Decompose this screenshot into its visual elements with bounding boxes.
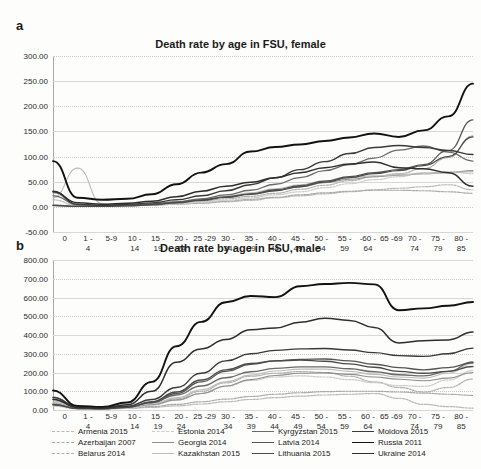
- y-tick-label: 100.00: [24, 387, 48, 396]
- series-line: [53, 283, 473, 407]
- legend-label: Ukraine 2014: [378, 449, 426, 458]
- y-axis-labels-a: -50.000.0050.00100.00150.00200.00250.003…: [0, 56, 52, 232]
- legend-swatch-icon: [352, 442, 374, 443]
- legend-swatch-icon: [52, 453, 74, 454]
- chart-panel-b: b Death rate by age in FSU, male 0.00100…: [0, 238, 481, 418]
- y-tick-label: 100.00: [24, 152, 48, 161]
- x-tick-label: 80 -85: [450, 412, 473, 432]
- gridline: [53, 410, 473, 411]
- y-axis-labels-b: 0.00100.00200.00300.00400.00500.00600.00…: [0, 260, 52, 410]
- legend-item[interactable]: Ukraine 2014: [352, 449, 452, 458]
- legend-swatch-icon: [252, 431, 274, 432]
- y-tick-label: 300.00: [24, 52, 48, 61]
- plot-area-a: -50.000.0050.00100.00150.00200.00250.003…: [0, 56, 481, 232]
- y-tick-label: 300.00: [24, 349, 48, 358]
- y-tick-label: 200.00: [24, 102, 48, 111]
- series-line: [53, 171, 473, 206]
- legend-row: Armenia 2015Estonia 2014Kyrgyzstan 2015M…: [52, 427, 452, 436]
- chart-panel-a: a Death rate by age in FSU, female -50.0…: [0, 18, 481, 238]
- y-tick-label: 500.00: [24, 312, 48, 321]
- legend-swatch-icon: [152, 431, 174, 432]
- legend-row: Azerbaijan 2007Georgia 2014Latvia 2014Ru…: [52, 438, 452, 447]
- plot-canvas-a: [53, 56, 473, 232]
- series-lines: [53, 260, 473, 410]
- y-tick-label: 250.00: [24, 77, 48, 86]
- legend-swatch-icon: [252, 442, 274, 443]
- y-tick-label: 150.00: [24, 127, 48, 136]
- legend-label: Russia 2011: [378, 438, 422, 447]
- legend-label: Belarus 2014: [78, 449, 125, 458]
- legend-label: Latvia 2014: [278, 438, 319, 447]
- chart-legend: Armenia 2015Estonia 2014Kyrgyzstan 2015M…: [52, 427, 452, 460]
- legend-swatch-icon: [152, 442, 174, 443]
- legend-item[interactable]: Belarus 2014: [52, 449, 152, 458]
- legend-item[interactable]: Azerbaijan 2007: [52, 438, 152, 447]
- legend-swatch-icon: [352, 453, 374, 454]
- gridline: [53, 232, 473, 233]
- legend-swatch-icon: [152, 453, 174, 454]
- y-tick-label: 400.00: [24, 331, 48, 340]
- plot-canvas-b: [53, 260, 473, 410]
- series-line: [53, 172, 473, 207]
- chart-title-b: Death rate by age in FSU, male: [0, 242, 481, 254]
- legend-item[interactable]: Moldova 2015: [352, 427, 452, 436]
- series-line: [53, 360, 473, 409]
- series-line: [53, 84, 473, 200]
- legend-label: Azerbaijan 2007: [78, 438, 136, 447]
- legend-label: Moldova 2015: [378, 427, 428, 436]
- legend-label: Kyrgyzstan 2015: [278, 427, 338, 436]
- y-tick-label: 700.00: [24, 274, 48, 283]
- legend-item[interactable]: Armenia 2015: [52, 427, 152, 436]
- y-tick-label: -50.00: [25, 228, 48, 237]
- y-tick-label: 0.00: [32, 406, 48, 415]
- legend-swatch-icon: [52, 431, 74, 432]
- legend-swatch-icon: [52, 442, 74, 443]
- legend-label: Armenia 2015: [78, 427, 128, 436]
- plot-area-b: 0.00100.00200.00300.00400.00500.00600.00…: [0, 260, 481, 410]
- y-tick-label: 0.00: [32, 202, 48, 211]
- legend-label: Kazakhstan 2015: [178, 449, 240, 458]
- y-tick-label: 50.00: [28, 177, 48, 186]
- legend-swatch-icon: [252, 453, 274, 454]
- legend-item[interactable]: Kazakhstan 2015: [152, 449, 252, 458]
- y-tick-label: 800.00: [24, 256, 48, 265]
- series-line: [53, 120, 473, 206]
- series-lines: [53, 56, 473, 232]
- y-tick-label: 600.00: [24, 293, 48, 302]
- legend-item[interactable]: Georgia 2014: [152, 438, 252, 447]
- legend-label: Estonia 2014: [178, 427, 225, 436]
- legend-item[interactable]: Kyrgyzstan 2015: [252, 427, 352, 436]
- legend-label: Georgia 2014: [178, 438, 226, 447]
- legend-item[interactable]: Estonia 2014: [152, 427, 252, 436]
- legend-swatch-icon: [352, 431, 374, 432]
- chart-title-a: Death rate by age in FSU, female: [0, 38, 481, 50]
- legend-item[interactable]: Russia 2011: [352, 438, 452, 447]
- figure-root: a Death rate by age in FSU, female -50.0…: [0, 0, 481, 469]
- legend-item[interactable]: Lithuania 2015: [252, 449, 352, 458]
- y-tick-label: 200.00: [24, 368, 48, 377]
- panel-letter-a: a: [16, 18, 23, 33]
- legend-row: Belarus 2014Kazakhstan 2015Lithuania 201…: [52, 449, 452, 458]
- legend-label: Lithuania 2015: [278, 449, 331, 458]
- legend-item[interactable]: Latvia 2014: [252, 438, 352, 447]
